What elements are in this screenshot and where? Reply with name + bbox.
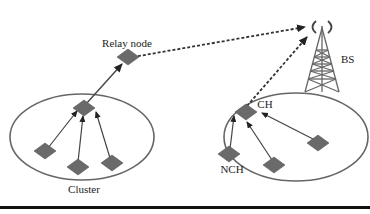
- bottom-rule: [0, 206, 370, 209]
- non-cluster-head-node-1: [218, 146, 240, 162]
- sensor-node-left-2: [67, 159, 89, 175]
- edge-left-n1-to-ch: [48, 111, 77, 148]
- relay-node: [117, 49, 139, 65]
- sensor-node-left-1: [34, 143, 56, 159]
- edge-right-n2-to-ch: [247, 122, 272, 160]
- edge-left-n2-to-ch: [78, 116, 83, 162]
- edge-relay-to-bs: [133, 27, 305, 57]
- cluster-head-node-right: [235, 104, 257, 120]
- non-cluster-head-node-2: [263, 157, 285, 173]
- sensor-node-left-3: [101, 155, 123, 171]
- edge-left-ch-to-relay: [86, 64, 122, 104]
- cluster-label: Cluster: [68, 183, 100, 195]
- network-diagram: Relay node CH NCH Cluster BS: [0, 0, 370, 214]
- base-station-label: BS: [341, 53, 354, 65]
- edge-right-n1-to-ch: [230, 116, 234, 149]
- edge-right-ch-to-bs: [247, 37, 307, 106]
- edge-left-n3-to-ch: [96, 112, 110, 158]
- edge-right-n3-to-ch: [262, 113, 313, 139]
- relay-node-label: Relay node: [102, 37, 152, 49]
- base-station-tower-icon: [305, 21, 339, 92]
- non-cluster-head-label: NCH: [220, 163, 243, 175]
- cluster-head-label: CH: [257, 98, 272, 110]
- cluster-head-node-left: [73, 100, 95, 116]
